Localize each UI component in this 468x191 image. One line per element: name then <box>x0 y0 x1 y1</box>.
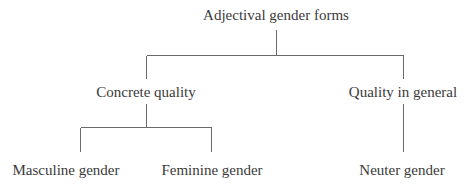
node-feminine-gender: Feminine gender <box>161 161 262 179</box>
node-root: Adjectival gender forms <box>203 6 349 24</box>
node-masculine-gender: Masculine gender <box>12 161 119 179</box>
node-neuter-gender: Neuter gender <box>359 161 444 179</box>
node-quality-in-general: Quality in general <box>349 83 457 101</box>
node-concrete-quality: Concrete quality <box>96 83 196 101</box>
gender-forms-tree-diagram: Adjectival gender forms Concrete quality… <box>0 0 468 191</box>
